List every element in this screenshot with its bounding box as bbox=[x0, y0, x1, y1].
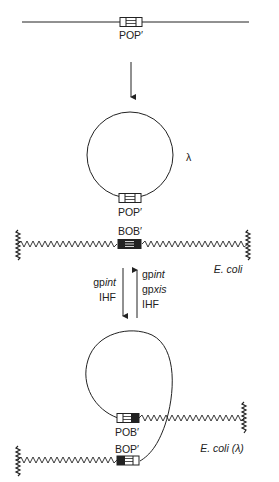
pop-label-circle: POP′ bbox=[118, 206, 142, 218]
pop-site-box bbox=[120, 18, 142, 27]
lambda-symbol: λ bbox=[186, 151, 192, 163]
pob-label: POB′ bbox=[115, 426, 139, 438]
integration-factor-gpint: gpint bbox=[93, 276, 117, 288]
linear-phage-dna: POP′ bbox=[22, 18, 249, 42]
pop-site-box-circle bbox=[119, 194, 141, 203]
excision-factor-ihf: IHF bbox=[142, 298, 159, 310]
bob-site-box bbox=[118, 240, 141, 249]
pob-site-box bbox=[117, 414, 139, 423]
lysogen-end-right bbox=[242, 402, 246, 433]
excision-factor-gpint: gpint bbox=[142, 268, 166, 280]
integration-factor-ihf: IHF bbox=[99, 291, 116, 303]
chromosome-end-left bbox=[16, 230, 20, 260]
bacterial-chromosome: BOB′ E. coli bbox=[16, 225, 250, 275]
lysogen: POB′ E. coli (λ) BOP′ bbox=[16, 331, 246, 476]
recombination-diagram: POP′ POP′ λ BOB′ E. coli bbox=[0, 0, 279, 482]
pop-label-top: POP′ bbox=[119, 29, 143, 41]
lysogen-end-left bbox=[16, 446, 20, 476]
reaction-arrows: gpint IHF gpint gpxis IHF bbox=[93, 268, 167, 318]
bob-label: BOB′ bbox=[118, 225, 142, 237]
bop-label: BOP′ bbox=[115, 443, 139, 455]
excision-factor-gpxis: gpxis bbox=[142, 283, 167, 295]
bop-site-box bbox=[117, 456, 139, 465]
ecoli-label: E. coli bbox=[214, 263, 243, 275]
ecoli-lambda-label: E. coli (λ) bbox=[200, 442, 244, 454]
circular-phage: POP′ λ bbox=[87, 112, 192, 218]
